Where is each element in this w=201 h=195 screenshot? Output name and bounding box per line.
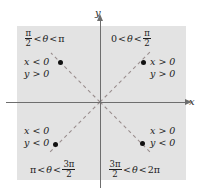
quadrant-3-sign-x: x < 0: [24, 125, 49, 137]
theta-symbol: θ: [132, 164, 138, 175]
quadrant-4-sign-y: y < 0: [150, 137, 175, 149]
relation-lt-2: <: [49, 33, 57, 44]
quadrant-3-lower-bound: π: [30, 164, 36, 175]
relation-lt-2: <: [134, 33, 142, 44]
point-quadrant-1: [141, 60, 146, 65]
quadrant-4-lower-fraction: 3π 2: [109, 160, 122, 179]
quadrant-2-upper-bound: π: [58, 33, 64, 44]
point-quadrant-4: [140, 141, 145, 146]
quadrant-3-sign-conditions: x < 0 y < 0: [24, 125, 49, 149]
relation-lt-1: <: [37, 164, 45, 175]
quadrant-2-sign-x: x < 0: [24, 56, 49, 68]
relation-lt-1: <: [118, 33, 126, 44]
quadrant-3-angle-range: π<θ< 3π 2: [30, 160, 76, 179]
quadrant-1-angle-range: 0<θ< π 2: [111, 29, 151, 48]
quadrant-2-lower-fraction: π 2: [25, 29, 33, 48]
quadrant-1-sign-y: y > 0: [150, 68, 175, 80]
point-quadrant-3: [53, 142, 58, 147]
theta-symbol: θ: [127, 33, 133, 44]
quadrant-1-sign-x: x > 0: [150, 56, 175, 68]
shaded-plane-region: [17, 26, 186, 180]
quadrant-3-sign-y: y < 0: [24, 137, 49, 149]
y-axis-line: [100, 20, 101, 188]
quadrant-3-upper-fraction: 3π 2: [62, 160, 75, 179]
quadrant-1-upper-fraction: π 2: [143, 29, 151, 48]
point-quadrant-2: [58, 60, 63, 65]
x-axis-label: x: [189, 96, 195, 107]
theta-symbol: θ: [43, 33, 49, 44]
quadrant-2-sign-conditions: x < 0 y > 0: [24, 56, 49, 80]
relation-lt-2: <: [53, 164, 61, 175]
theta-symbol: θ: [46, 164, 52, 175]
quadrant-2-angle-range: π 2 <θ<π: [24, 29, 65, 48]
quadrant-1-sign-conditions: x > 0 y > 0: [150, 56, 175, 80]
quadrant-sign-figure: y x π 2 <θ<π x < 0 y > 0 0<θ< π 2 x > 0 …: [0, 0, 201, 195]
quadrant-4-sign-conditions: x > 0 y < 0: [150, 125, 175, 149]
quadrant-4-upper-bound: 2π: [148, 164, 160, 175]
quadrant-4-angle-range: 3π 2 <θ<2π: [108, 160, 160, 179]
quadrant-4-sign-x: x > 0: [150, 125, 175, 137]
quadrant-2-sign-y: y > 0: [24, 68, 49, 80]
relation-lt-1: <: [34, 33, 42, 44]
x-axis-line: [6, 102, 186, 103]
relation-lt-2: <: [139, 164, 147, 175]
relation-lt-1: <: [123, 164, 131, 175]
y-axis-label: y: [95, 7, 101, 18]
quadrant-1-lower-bound: 0: [111, 33, 117, 44]
